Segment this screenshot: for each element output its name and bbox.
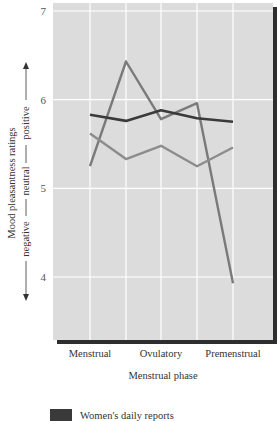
y-tick-label: 5 xyxy=(41,182,47,194)
scale-label-neutral: neutral xyxy=(20,166,31,195)
x-category-label: Ovulatory xyxy=(140,348,183,359)
arrow-up-icon xyxy=(23,62,29,69)
plot-area xyxy=(53,3,273,340)
x-axis-categories: MenstrualOvulatoryPremenstrual xyxy=(69,348,261,359)
mood-chart: 4567 MenstrualOvulatoryPremenstrual Mens… xyxy=(0,0,280,421)
x-axis-title: Menstrual phase xyxy=(128,370,197,381)
legend-label: Women's daily reports xyxy=(80,410,174,421)
legend-swatch xyxy=(50,409,72,421)
y-tick-label: 7 xyxy=(41,5,47,17)
y-axis-ticks: 4567 xyxy=(41,5,47,283)
y-axis-title: Mood pleasantness ratings xyxy=(6,127,17,238)
arrow-down-icon xyxy=(23,294,29,301)
scale-label-positive: positive xyxy=(20,106,31,140)
y-tick-label: 6 xyxy=(41,94,47,106)
plot-shadow-bottom xyxy=(57,340,277,344)
plot-shadow-right xyxy=(273,7,277,344)
scale-label-negative: negative xyxy=(20,221,31,257)
y-scale-indicator: negative neutral positive xyxy=(20,62,31,301)
x-category-label: Menstrual xyxy=(69,348,112,359)
x-category-label: Premenstrual xyxy=(205,348,260,359)
y-tick-label: 4 xyxy=(41,271,47,283)
